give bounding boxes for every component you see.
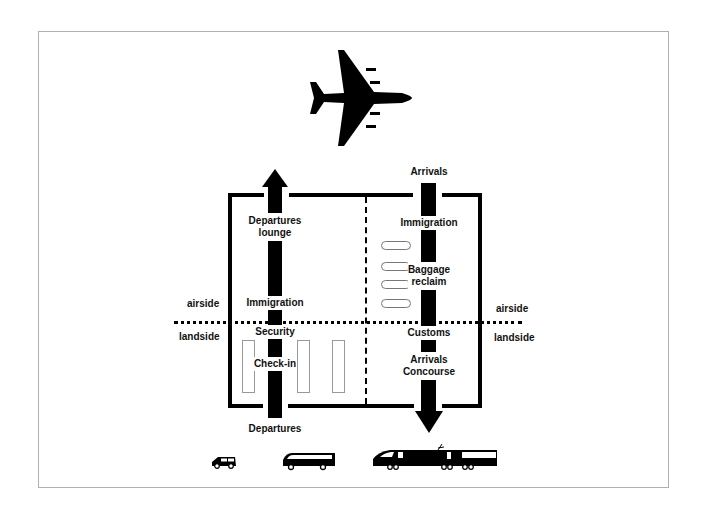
building-wall-bottom-right (442, 404, 482, 408)
train-icon (372, 444, 498, 472)
checkin-desk (297, 340, 310, 393)
baggage-belt (381, 241, 411, 250)
building-wall-left (228, 193, 232, 408)
departures-arrivals-divider (365, 197, 367, 404)
baggage-belt (381, 280, 411, 289)
airside-label-left: airside (187, 298, 219, 309)
landside-label-left: landside (179, 331, 220, 342)
landside-label-right: landside (494, 332, 535, 343)
coach-icon (282, 451, 336, 471)
airside-label-right: airside (496, 303, 528, 314)
baggage-reclaim-label: Baggage reclaim (408, 262, 450, 290)
building-wall-top-middle (289, 193, 413, 197)
baggage-belt (381, 299, 411, 308)
building-wall-right (478, 193, 482, 408)
arrivals-arrow-head-icon (415, 411, 443, 433)
checkin-desk (332, 340, 345, 393)
security-label: Security (255, 325, 294, 339)
arrivals-immigration-label: Immigration (400, 216, 457, 230)
baggage-belt (381, 262, 411, 271)
departures-lounge-label: Departures lounge (249, 213, 302, 241)
departures-immigration-label: Immigration (246, 296, 303, 310)
building-wall-bottom-left (228, 404, 263, 408)
departures-entry-label: Departures (249, 422, 302, 436)
checkin-label: Check-in (254, 357, 296, 371)
car-icon (211, 455, 237, 469)
building-wall-bottom-middle (288, 404, 414, 408)
customs-label: Customs (408, 326, 451, 340)
arrivals-concourse-label: Arrivals Concourse (403, 352, 455, 380)
airside-landside-boundary (174, 321, 522, 324)
arrivals-entry-label: Arrivals (410, 165, 447, 179)
building-wall-top-right (442, 193, 482, 197)
building-wall-top-left (228, 193, 264, 197)
departures-arrow-head-icon (262, 169, 288, 187)
airplane-icon (308, 48, 414, 148)
